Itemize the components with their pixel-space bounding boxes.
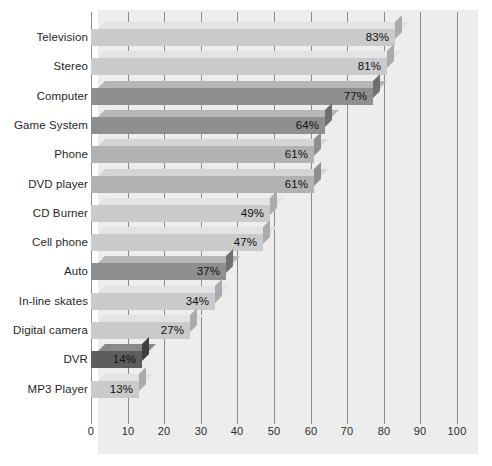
bar-side-face [387, 44, 394, 68]
bar-side-face [373, 74, 380, 98]
x-tick-label: 50 [254, 425, 294, 437]
x-tick-label: 10 [108, 425, 148, 437]
x-tick-label: 0 [71, 425, 111, 437]
bar-value-label: 83% [355, 31, 389, 43]
bar-value-label: 49% [230, 207, 264, 219]
bar-value-label: 61% [274, 178, 308, 190]
bar-side-face [314, 132, 321, 156]
axis-tick-100 [457, 413, 458, 424]
category-label: DVR [0, 353, 88, 365]
x-tick-label: 100 [437, 425, 477, 437]
axis-tick-90 [420, 413, 421, 424]
x-tick-label: 40 [217, 425, 257, 437]
axis-tick-50 [274, 413, 275, 424]
bar-side-face [314, 162, 321, 186]
category-label: In-line skates [0, 295, 88, 307]
x-tick-label: 30 [181, 425, 221, 437]
bar-side-face [226, 249, 233, 273]
axis-tick-20 [164, 413, 165, 424]
bar-value-label: 47% [223, 236, 257, 248]
category-label: Stereo [0, 60, 88, 72]
bar-value-label: 14% [102, 353, 136, 365]
bar-front-face [91, 29, 395, 46]
axis-tick-60 [311, 413, 312, 424]
x-tick-label: 60 [291, 425, 331, 437]
x-tick-label: 70 [327, 425, 367, 437]
category-label: Phone [0, 148, 88, 160]
axis-tick-70 [347, 413, 348, 424]
bar-value-label: 61% [274, 148, 308, 160]
bar-side-face [142, 337, 149, 361]
axis-tick-80 [384, 413, 385, 424]
x-tick-label: 90 [400, 425, 440, 437]
bar-side-face [270, 191, 277, 215]
category-label: Digital camera [0, 324, 88, 336]
x-tick-label: 80 [364, 425, 404, 437]
category-label: Game System [0, 119, 88, 131]
category-label: DVD player [0, 178, 88, 190]
category-label: Auto [0, 265, 88, 277]
bar-side-face [190, 308, 197, 332]
x-tick-label: 20 [144, 425, 184, 437]
bar-value-label: 13% [99, 383, 133, 395]
category-label: Television [0, 31, 88, 43]
bar-side-face [139, 367, 146, 391]
category-label: Cell phone [0, 236, 88, 248]
bar-value-label: 64% [285, 119, 319, 131]
bar-side-face [395, 15, 402, 39]
category-label: CD Burner [0, 207, 88, 219]
category-label: Computer [0, 90, 88, 102]
bar-value-label: 81% [347, 60, 381, 72]
bar-value-label: 27% [150, 324, 184, 336]
bar-value-label: 34% [175, 295, 209, 307]
axis-tick-40 [237, 413, 238, 424]
bar-front-face [91, 58, 387, 75]
bar-side-face [215, 279, 222, 303]
bar-side-face [325, 103, 332, 127]
category-label: MP3 Player [0, 383, 88, 395]
axis-tick-0 [91, 413, 92, 424]
gridline-90 [420, 12, 421, 422]
bar-chart: 83%Television81%Stereo77%Computer64%Game… [0, 0, 492, 466]
axis-tick-30 [201, 413, 202, 424]
bar-value-label: 77% [333, 90, 367, 102]
bar-side-face [263, 220, 270, 244]
gridline-100 [457, 12, 458, 422]
bar-value-label: 37% [186, 265, 220, 277]
axis-tick-10 [128, 413, 129, 424]
plot-area: 83%Television81%Stereo77%Computer64%Game… [0, 0, 492, 466]
